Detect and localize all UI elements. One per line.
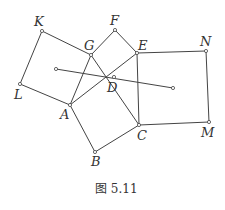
square-abcd — [70, 105, 139, 152]
label-e: E — [137, 38, 148, 53]
label-l: L — [13, 87, 23, 102]
label-d: D — [106, 80, 118, 95]
label-k: K — [33, 14, 45, 29]
label-g: G — [84, 38, 94, 53]
segment-ec — [137, 53, 139, 125]
label-m: M — [200, 125, 215, 140]
segment-ae — [70, 53, 137, 105]
segment-ag — [70, 55, 91, 105]
label-b: B — [90, 154, 101, 169]
label-n: N — [199, 34, 212, 49]
label-c: C — [137, 128, 147, 143]
square-gfed — [91, 30, 137, 55]
label-f: F — [109, 13, 120, 28]
figure-caption: 图 5.11 — [95, 182, 138, 196]
label-a: A — [59, 107, 69, 122]
geometry-diagram: K F G E N D L A C M B 图 5.11 — [0, 0, 225, 210]
